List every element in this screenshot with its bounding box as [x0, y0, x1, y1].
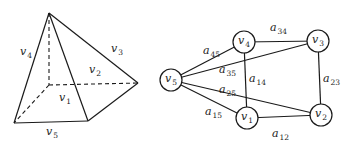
edge-label-a23: a23 — [323, 72, 340, 87]
edge-label-a14: a14 — [249, 72, 266, 87]
edge-label-a25: a25 — [219, 83, 236, 98]
edge-label-a12: a12 — [272, 127, 289, 142]
dual-graph-figure: a45a35a25a15a34a14a23a12v5v4v3v1v2 — [160, 21, 340, 142]
graph-node-v1: v1 — [236, 107, 258, 129]
pyramid-edge-front_right-back_right — [88, 83, 138, 121]
face-label-v5: v5 — [46, 125, 58, 140]
edge-label-a45: a45 — [203, 44, 220, 59]
graph-node-v5: v5 — [160, 69, 182, 91]
graph-node-v2: v2 — [310, 104, 332, 126]
edge-label-a34: a34 — [270, 21, 287, 36]
pyramid-hidden-edge-back_left-front_left — [14, 85, 49, 123]
pyramid-hidden-edge-back_left-back_right — [49, 83, 138, 85]
edge-label-a15: a15 — [205, 105, 222, 120]
pyramid-edge-apex-front_left — [14, 13, 49, 123]
graph-node-v3: v3 — [307, 30, 329, 52]
face-label-v4: v4 — [20, 45, 32, 60]
graph-node-v4: v4 — [233, 31, 255, 53]
pyramid-edge-front_left-front_right — [14, 121, 88, 123]
face-label-v3: v3 — [111, 42, 123, 57]
face-label-v2: v2 — [89, 63, 101, 78]
diagram-canvas: v4v3v2v1v5 a45a35a25a15a34a14a23a12v5v4v… — [0, 0, 349, 147]
pyramid-figure: v4v3v2v1v5 — [14, 13, 138, 140]
face-label-v1: v1 — [59, 91, 71, 106]
